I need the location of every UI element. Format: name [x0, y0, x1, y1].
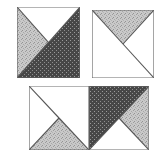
bottom-right-square — [89, 86, 149, 150]
bottom-left-square — [29, 86, 89, 150]
top-right-block-svg — [92, 10, 154, 78]
top-left-block-svg — [17, 7, 80, 78]
bottom-left-square-svg — [29, 86, 89, 150]
top-left-block — [17, 7, 80, 78]
top-right-block — [92, 10, 154, 78]
figure-canvas — [0, 0, 160, 157]
bottom-right-square-svg — [89, 86, 149, 150]
